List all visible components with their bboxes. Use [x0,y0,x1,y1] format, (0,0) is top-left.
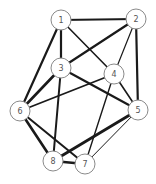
edge-3-5 [61,68,138,110]
edge-3-8 [53,68,61,161]
node-6: 6 [10,101,30,121]
node-7: 7 [75,154,95,174]
node-label: 1 [58,16,63,25]
node-label: 4 [111,70,116,79]
node-1: 1 [51,10,71,30]
edge-layer [20,19,138,164]
node-3: 3 [51,58,71,78]
node-8: 8 [43,151,63,171]
node-label: 2 [133,15,138,24]
edge-1-2 [61,19,136,20]
node-label: 7 [82,160,87,169]
node-label: 3 [58,64,63,73]
edge-2-3 [61,19,136,68]
node-label: 8 [50,157,55,166]
node-2: 2 [126,9,146,29]
edge-4-7 [85,74,114,164]
node-5: 5 [128,100,148,120]
graph-diagram: 12345678 [0,0,156,184]
node-layer: 12345678 [10,9,148,174]
edge-2-5 [136,19,138,110]
node-label: 5 [135,106,140,115]
node-label: 6 [17,107,22,116]
node-4: 4 [104,64,124,84]
